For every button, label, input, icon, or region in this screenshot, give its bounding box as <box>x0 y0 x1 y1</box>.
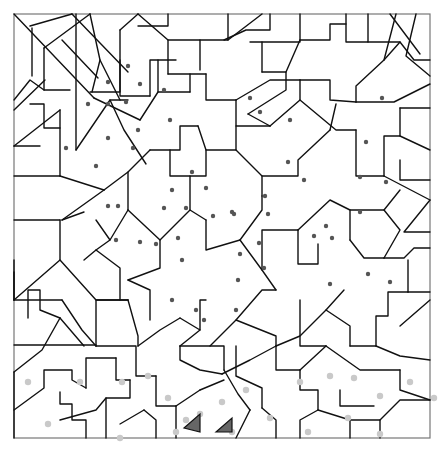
dot-marker <box>25 379 31 385</box>
dot-marker <box>114 238 118 242</box>
outline-segment <box>60 318 84 346</box>
outline-segment <box>400 300 430 326</box>
outline-segment <box>180 290 276 346</box>
dot-marker <box>364 140 368 144</box>
dot-marker <box>232 212 236 216</box>
outline-segment <box>14 220 60 300</box>
outline-lines <box>14 14 430 438</box>
dot-marker <box>234 308 238 312</box>
dot-marker <box>328 282 332 286</box>
outline-segment <box>206 74 236 100</box>
dot-marker <box>165 395 171 401</box>
outline-segment <box>86 358 116 388</box>
dot-marker <box>305 429 311 435</box>
outline-segment <box>96 346 156 376</box>
outline-segment <box>384 108 400 176</box>
dot-marker <box>288 118 292 122</box>
dot-marker <box>266 212 270 216</box>
outline-segment <box>62 212 84 220</box>
dot-marker <box>138 240 142 244</box>
outline-segment <box>138 318 180 346</box>
outline-segment <box>120 14 138 30</box>
outline-segment <box>198 126 236 150</box>
dot-marker <box>124 100 128 104</box>
outline-segment <box>240 240 276 290</box>
dot-marker <box>77 379 83 385</box>
filled-triangle <box>216 418 232 432</box>
dot-marker <box>180 258 184 262</box>
outline-segment <box>236 410 250 438</box>
dot-marker <box>384 180 388 184</box>
dot-marker <box>243 387 249 393</box>
outline-segment <box>224 14 270 40</box>
outline-segment <box>326 346 400 370</box>
outline-segment <box>276 346 300 370</box>
outline-segment <box>116 358 130 380</box>
dot-marker <box>204 186 208 190</box>
outline-segment <box>14 370 86 410</box>
outline-segment <box>406 14 430 76</box>
dot-marker <box>106 136 110 140</box>
outline-segment <box>404 200 430 232</box>
outline-segment <box>318 410 350 438</box>
dot-marker <box>238 252 242 256</box>
outline-segment <box>300 370 318 410</box>
outline-segment <box>350 420 380 438</box>
dot-marker <box>377 393 383 399</box>
dot-marker <box>119 379 125 385</box>
dot-marker <box>263 194 267 198</box>
outline-segment <box>60 398 106 420</box>
outline-segment <box>200 14 228 40</box>
dot-marker <box>388 280 392 284</box>
dot-marker <box>267 415 273 421</box>
dot-marker <box>377 431 383 437</box>
outline-segment <box>326 310 350 346</box>
dot-marker <box>94 164 98 168</box>
outline-segment <box>96 300 128 346</box>
outline-segment <box>150 126 198 150</box>
outline-segment <box>106 380 130 438</box>
dot-marker <box>190 170 194 174</box>
outline-segment <box>222 346 276 374</box>
dot-marker <box>145 373 151 379</box>
outline-segment <box>60 392 86 438</box>
dot-marker <box>126 64 130 68</box>
outline-segment <box>180 330 200 346</box>
dot-marker <box>312 234 316 238</box>
outline-segment <box>400 160 430 180</box>
dot-marker <box>162 88 166 92</box>
outline-segment <box>300 346 326 370</box>
outline-segment <box>210 346 224 370</box>
dot-marker <box>431 395 437 401</box>
dot-marker <box>258 110 262 114</box>
outline-segment <box>248 114 270 126</box>
outline-segment <box>30 104 60 128</box>
dot-marker <box>170 298 174 302</box>
dot-marker <box>106 80 110 84</box>
outline-segment <box>400 370 430 400</box>
outline-segment <box>110 210 128 240</box>
dot-marker <box>257 241 261 245</box>
outline-segment <box>300 80 356 102</box>
outline-segment <box>180 346 222 374</box>
outline-segment <box>90 60 120 92</box>
dot-marker <box>211 214 215 218</box>
filled-triangles <box>184 414 232 432</box>
dot-marker <box>358 210 362 214</box>
outline-segment <box>286 40 300 72</box>
dot-marker <box>236 278 240 282</box>
outline-segment <box>100 60 120 100</box>
dark-dots <box>64 64 392 322</box>
dot-marker <box>170 188 174 192</box>
dot-marker <box>154 242 158 246</box>
dot-marker <box>366 272 370 276</box>
dot-marker <box>45 421 51 427</box>
outline-segment <box>350 240 384 258</box>
dot-marker <box>136 128 140 132</box>
dot-marker <box>330 236 334 240</box>
outline-segment <box>368 42 430 60</box>
outline-segment <box>350 210 400 258</box>
outline-segment <box>330 104 336 130</box>
dot-marker <box>116 204 120 208</box>
outline-segment <box>110 100 146 164</box>
